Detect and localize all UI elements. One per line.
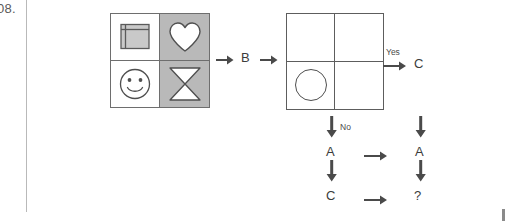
arrow-c-left-to-question [364,192,388,210]
no-label: No [340,122,351,132]
arrow-yes-to-c [383,58,407,76]
circle-icon [294,68,328,102]
heart-icon [168,21,202,53]
node-a-right: A [415,144,424,159]
input-cell-top-left [111,14,160,61]
output-cell-top-right [335,14,383,62]
output-grid [286,13,384,110]
arrow-grid1-to-b [216,52,234,70]
arrow-no-down [326,116,338,142]
input-cell-top-right [160,14,209,61]
hourglass-icon [167,66,203,102]
input-cell-bottom-right [160,61,209,108]
output-cell-bottom-left [287,62,335,110]
input-grid [110,13,210,108]
arrow-c-down [415,116,427,142]
output-cell-bottom-right [335,62,383,110]
margin-rule [26,0,27,212]
node-c-top: C [414,56,424,71]
arrow-a-to-c-left [326,160,338,186]
yes-label: Yes [386,47,400,57]
input-cell-bottom-left [111,61,160,108]
question-number: 08. [0,1,16,16]
square-frame-icon [118,22,152,52]
worksheet-page: 08. [0,0,507,224]
operator-b: B [241,50,250,65]
node-question-mark: ? [414,188,421,203]
node-a-left: A [326,144,335,159]
node-c-left: C [326,188,336,203]
page-edge-mark [502,209,505,221]
arrow-b-to-grid2 [260,52,278,70]
arrow-a-to-question [415,160,427,186]
arrow-a-left-to-a-right [364,148,388,166]
smiley-face-icon [118,67,152,101]
output-cell-top-left [287,14,335,62]
